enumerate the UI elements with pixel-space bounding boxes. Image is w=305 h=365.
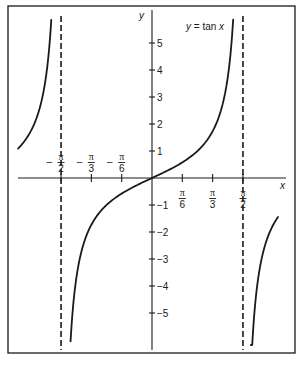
y-tick-label: −2 [157,227,169,238]
svg-text:3: 3 [89,163,95,174]
svg-text:2: 2 [240,199,246,210]
svg-text:π: π [180,187,185,198]
svg-text:π: π [119,151,124,162]
svg-text:π: π [59,151,64,162]
x-axis-label: x [279,180,286,191]
tan-chart: y x y = tan x 54321−1−2−3−4−5 π2–π3–π6–π… [0,0,305,365]
y-tick-label: 2 [157,119,163,130]
y-axis-label: y [138,10,145,21]
y-tick-label: −4 [157,281,169,292]
y-tick-label: −1 [157,200,169,211]
x-tick-label: π3 [209,187,216,210]
svg-text:6: 6 [119,163,125,174]
y-tick-label: −5 [157,308,169,319]
tan-curves [18,20,278,345]
y-tick-label: −3 [157,254,169,265]
x-tick-label: π3– [77,151,95,174]
x-tick-label: π2 [239,187,246,210]
y-tick-label: 5 [157,38,163,49]
function-label: y = tan x [185,21,225,32]
tan-branch-0 [18,20,51,149]
svg-text:π: π [89,151,94,162]
x-tick-label: π2– [46,151,64,174]
svg-text:–: – [107,156,113,167]
svg-text:–: – [46,156,52,167]
svg-text:–: – [77,156,83,167]
svg-text:6: 6 [180,199,186,210]
svg-text:π: π [210,187,215,198]
y-tick-label: 4 [157,65,163,76]
x-tick-label: π6– [107,151,125,174]
svg-text:2: 2 [58,163,64,174]
y-tick-label: 1 [157,146,163,157]
y-tick-label: 3 [157,92,163,103]
svg-text:3: 3 [210,199,216,210]
tan-branch-2 [251,217,278,345]
svg-text:π: π [240,187,245,198]
x-tick-label: π6 [179,187,186,210]
